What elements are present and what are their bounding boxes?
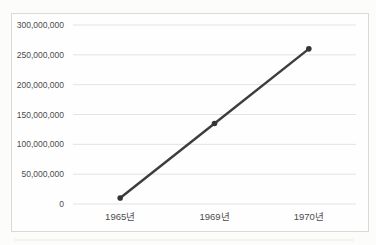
x-tick-label: 1969년 bbox=[199, 211, 229, 222]
chart-panel: 050,000,000100,000,000150,000,000200,000… bbox=[11, 13, 369, 232]
y-tick-label: 50,000,000 bbox=[21, 169, 64, 179]
scan-artifact bbox=[14, 239, 354, 241]
data-point-marker bbox=[306, 46, 312, 52]
x-tick-label: 1970년 bbox=[294, 211, 324, 222]
y-tick-label: 150,000,000 bbox=[17, 110, 65, 120]
y-tick-label: 300,000,000 bbox=[17, 20, 65, 30]
data-point-marker bbox=[117, 195, 123, 201]
y-tick-label: 200,000,000 bbox=[17, 80, 65, 90]
x-tick-label: 1965년 bbox=[105, 211, 135, 222]
y-tick-label: 100,000,000 bbox=[17, 139, 65, 149]
y-tick-label: 0 bbox=[59, 199, 64, 209]
data-point-marker bbox=[212, 121, 218, 127]
line-chart-canvas: 050,000,000100,000,000150,000,000200,000… bbox=[12, 14, 368, 231]
y-tick-label: 250,000,000 bbox=[17, 50, 65, 60]
